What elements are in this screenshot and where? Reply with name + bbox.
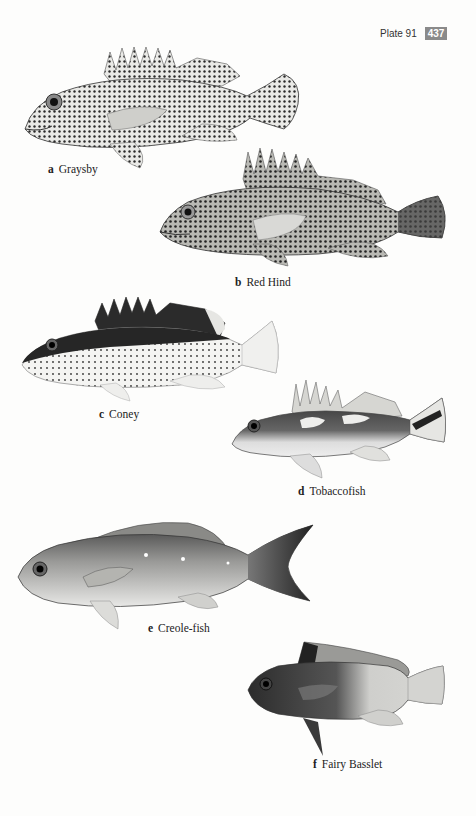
caption-red-hind: bRed Hind <box>235 276 291 288</box>
page-number-badge: 437 <box>425 27 448 40</box>
plate-label: Plate 91 <box>380 28 417 39</box>
page-header: Plate 91 437 <box>380 26 447 40</box>
caption-coney: cConey <box>99 408 139 420</box>
tobaccofish-illustration <box>230 374 450 484</box>
fairy-basslet-illustration <box>248 638 448 758</box>
caption-fairy-basslet: fFairy Basslet <box>313 758 382 770</box>
caption-graysby: aGraysby <box>48 163 98 175</box>
caption-tobaccofish: dTobaccofish <box>298 485 365 497</box>
red-hind-illustration <box>158 144 453 274</box>
caption-creole-fish: eCreole-fish <box>148 622 210 634</box>
